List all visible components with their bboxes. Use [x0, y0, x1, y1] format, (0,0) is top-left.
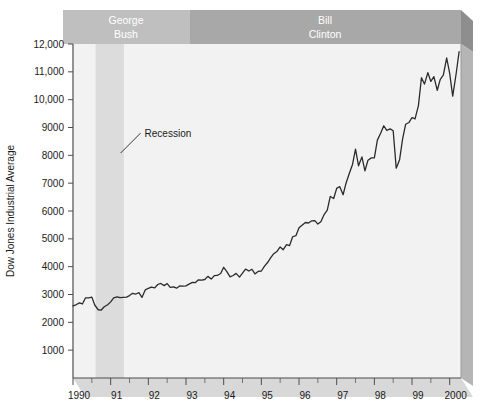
- y-tick-label: 2000: [42, 317, 65, 328]
- y-tick-label: 3000: [42, 289, 65, 300]
- y-tick-label: 10,000: [33, 94, 64, 105]
- x-tick-label: 91: [111, 390, 123, 401]
- x-tick-label: 1990: [68, 390, 91, 401]
- x-tick-label: 92: [149, 390, 161, 401]
- y-tick-label: 11,000: [34, 66, 64, 77]
- george-bush-label-line2: Bush: [114, 28, 138, 40]
- recession-shaded-band: [96, 44, 124, 378]
- x-tick-label: 98: [375, 390, 387, 401]
- y-tick-label: 7000: [42, 178, 65, 189]
- plot-3d-right-face: [461, 44, 473, 386]
- x-tick-label: 93: [186, 390, 198, 401]
- y-axis-title: Dow Jones Industrial Average: [5, 145, 16, 278]
- x-tick-label: 95: [262, 390, 274, 401]
- y-tick-label: 4000: [42, 261, 65, 272]
- x-tick-label: 96: [299, 390, 311, 401]
- x-tick-label: 2000: [445, 390, 468, 401]
- plot-area-background: [73, 44, 461, 378]
- x-tick-label: 94: [224, 390, 236, 401]
- y-tick-label: 5000: [42, 233, 65, 244]
- george-bush-label-line1: George: [108, 14, 143, 26]
- x-tick-label: 97: [337, 390, 349, 401]
- bill-clinton-label-line1: Bill: [318, 14, 332, 26]
- y-tick-label: 9000: [42, 122, 65, 133]
- dow-jones-chart: George Bush Bill Clinton 100020003000400…: [0, 0, 483, 410]
- recession-annotation-label: Recession: [145, 128, 192, 139]
- y-tick-label: 6000: [42, 206, 65, 217]
- y-tick-label: 8000: [42, 150, 65, 161]
- chart-canvas: George Bush Bill Clinton 100020003000400…: [0, 0, 483, 410]
- y-tick-label: 1000: [42, 345, 65, 356]
- y-tick-label: 12,000: [33, 39, 64, 50]
- y-axis-ticks-group: 10002000300040005000600070008000900010,0…: [33, 39, 73, 356]
- bill-clinton-label-line2: Clinton: [309, 28, 342, 40]
- x-tick-label: 99: [412, 390, 424, 401]
